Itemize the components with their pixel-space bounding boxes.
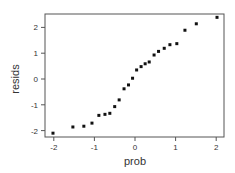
y-tick-label: 2 bbox=[34, 23, 39, 32]
x-tick-label: 0 bbox=[133, 143, 138, 152]
qq-scatter-chart: -2-1012 -2-1012 prob resids bbox=[0, 0, 235, 173]
data-point bbox=[103, 113, 106, 116]
data-point bbox=[113, 105, 116, 108]
x-tick-label: 2 bbox=[214, 143, 219, 152]
data-point bbox=[140, 65, 143, 68]
data-point bbox=[90, 122, 93, 125]
data-point bbox=[163, 47, 166, 50]
data-point bbox=[153, 54, 156, 57]
data-point bbox=[51, 132, 54, 135]
data-point bbox=[82, 125, 85, 128]
chart-canvas: -2-1012 -2-1012 prob resids bbox=[0, 0, 235, 173]
y-axis-label: resids bbox=[9, 64, 21, 94]
x-tick-label: -1 bbox=[91, 143, 99, 152]
data-point bbox=[216, 16, 219, 19]
data-point bbox=[175, 42, 178, 45]
data-point bbox=[195, 22, 198, 25]
data-point bbox=[135, 68, 138, 71]
data-point bbox=[157, 50, 160, 53]
data-point bbox=[148, 60, 151, 63]
y-tick-label: -2 bbox=[31, 127, 39, 136]
data-points bbox=[51, 16, 218, 135]
x-tick-label: 1 bbox=[173, 143, 178, 152]
y-tick-label: -1 bbox=[31, 101, 39, 110]
data-point bbox=[144, 62, 147, 65]
y-axis: -2-1012 bbox=[31, 23, 45, 135]
data-point bbox=[183, 29, 186, 32]
x-tick-label: -2 bbox=[50, 143, 58, 152]
data-point bbox=[123, 87, 126, 90]
data-point bbox=[127, 83, 130, 86]
plot-frame bbox=[45, 14, 224, 137]
x-axis: -2-1012 bbox=[50, 137, 219, 152]
data-point bbox=[118, 98, 121, 101]
y-tick-label: 1 bbox=[34, 49, 39, 58]
data-point bbox=[71, 125, 74, 128]
y-tick-label: 0 bbox=[34, 75, 39, 84]
data-point bbox=[131, 77, 134, 80]
x-axis-label: prob bbox=[124, 155, 146, 167]
data-point bbox=[97, 114, 100, 117]
data-point bbox=[168, 43, 171, 46]
data-point bbox=[108, 112, 111, 115]
